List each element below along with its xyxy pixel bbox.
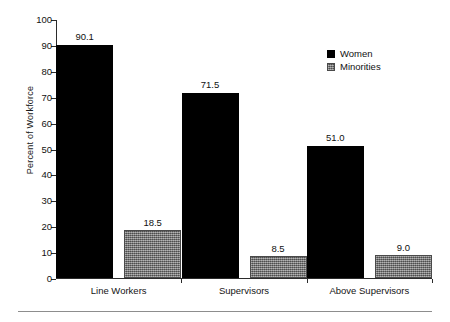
bar-value-label: 90.1: [75, 31, 94, 42]
bar-minorities-supervisors: 8.5: [250, 256, 307, 278]
footer-rule: [18, 311, 432, 312]
legend-label-minorities: Minorities: [340, 61, 381, 72]
x-category-label: Above Supervisors: [329, 285, 409, 296]
x-category-label: Supervisors: [219, 285, 269, 296]
bar-women-line-workers: 90.1: [56, 45, 113, 278]
x-tick-mark: [432, 279, 433, 283]
y-tick-label: 80: [41, 66, 52, 77]
bar-women-supervisors: 71.5: [182, 93, 239, 278]
y-tick-label: 50: [41, 144, 52, 155]
bar-minorities-above-supervisors: 9.0: [375, 255, 432, 278]
bar-value-label: 8.5: [271, 243, 284, 254]
gray-square-icon: [327, 63, 335, 71]
x-tick-mark: [181, 279, 182, 283]
y-tick-label: 0: [47, 273, 52, 284]
y-tick-label: 70: [41, 92, 52, 103]
bar-value-label: 9.0: [397, 242, 410, 253]
y-tick-label: 60: [41, 118, 52, 129]
legend-label-women: Women: [340, 48, 373, 59]
bar-value-label: 71.5: [201, 79, 220, 90]
y-tick-label: 100: [36, 14, 52, 25]
bar-value-label: 18.5: [143, 217, 162, 228]
legend-item-minorities: Minorities: [327, 61, 381, 72]
bar-value-label: 51.0: [326, 132, 345, 143]
x-tick-mark: [307, 279, 308, 283]
chart-legend: Women Minorities: [327, 48, 381, 74]
y-tick-label: 40: [41, 169, 52, 180]
black-square-icon: [327, 50, 335, 58]
x-axis-line: [56, 278, 432, 279]
bar-women-above-supervisors: 51.0: [307, 146, 364, 278]
legend-item-women: Women: [327, 48, 381, 59]
y-tick-label: 90: [41, 40, 52, 51]
y-tick-label: 30: [41, 195, 52, 206]
bar-minorities-line-workers: 18.5: [124, 230, 181, 278]
y-axis-title: Percent of Workforce: [25, 60, 35, 200]
x-category-label: Line Workers: [91, 285, 147, 296]
y-tick-label: 10: [41, 247, 52, 258]
bar-chart-figure: Percent of Workforce 0102030405060708090…: [0, 0, 450, 322]
y-tick-label: 20: [41, 221, 52, 232]
